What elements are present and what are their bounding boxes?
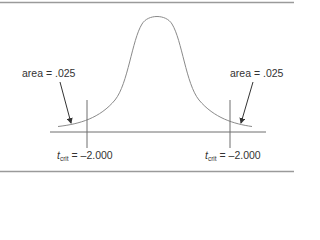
left-arrow-icon xyxy=(60,82,71,123)
left-tcrit-subscript: crit xyxy=(60,155,69,162)
right-arrow-icon xyxy=(241,82,253,123)
right-area-label: area = .025 xyxy=(230,68,283,79)
right-tcrit-label: tcrit = –2.000 xyxy=(205,150,261,163)
right-tcrit-value: = –2.000 xyxy=(220,149,261,161)
left-tcrit-value: = –2.000 xyxy=(72,149,113,161)
left-tcrit-label: tcrit = –2.000 xyxy=(57,150,113,163)
right-tcrit-subscript: crit xyxy=(208,155,217,162)
left-area-label: area = .025 xyxy=(22,68,75,79)
